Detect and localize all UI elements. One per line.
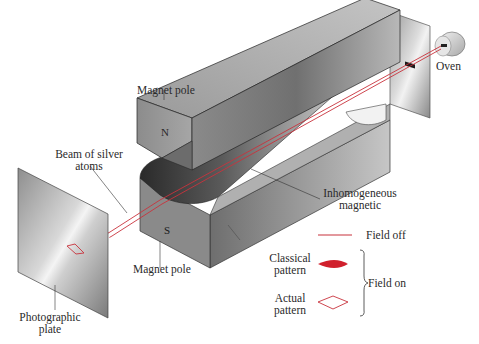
legend-graphics [318,235,368,316]
photographic-plate [18,168,108,318]
legend-field-on: Field on [368,277,406,290]
legend-classical-line2: pattern [262,264,318,277]
brace-icon [360,250,368,316]
actual-pattern-icon [318,296,348,309]
field-label-line2: magnetic [315,199,405,212]
oven-icon [435,32,465,56]
magnet-pole-top-label: Magnet pole [137,84,195,97]
magnet-pole-bottom-label: Magnet pole [133,263,191,276]
legend-actual-line2: pattern [262,304,318,317]
stern-gerlach-diagram: Oven Magnet pole N S Magnet pole Beam of… [0,0,479,344]
legend-field-off: Field off [366,229,406,242]
classical-pattern-icon [318,260,348,268]
plate-label-line2: plate [10,323,90,336]
pole-n-label: N [161,126,169,139]
oven-label: Oven [436,60,461,73]
pole-s-label: S [164,224,170,237]
beam-label-line2: atoms [44,160,134,173]
